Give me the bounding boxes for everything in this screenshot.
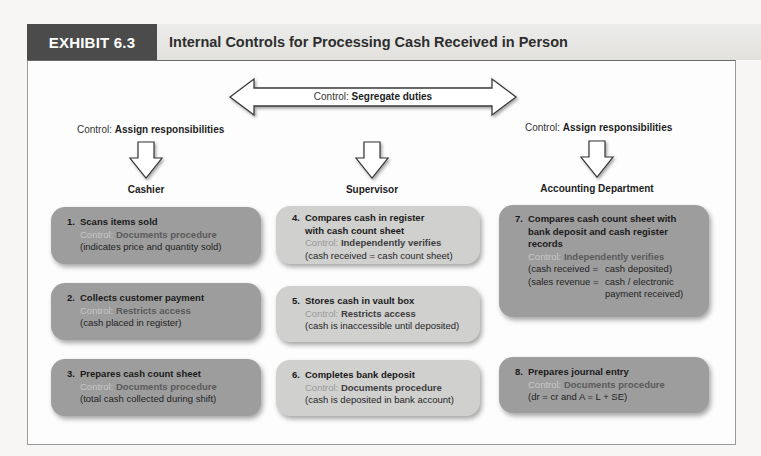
step-control: Control: Restricts access [292,308,468,321]
control-value: Assign responsibilities [115,124,224,135]
step-number: 7. [515,213,528,226]
equation-row: (cash received = cash deposited) [515,263,697,276]
step-number: 8. [515,366,528,379]
exhibit-title: Internal Controls for Processing Cash Re… [169,24,568,60]
step-number: 6. [292,369,305,382]
exhibit-tag: EXHIBIT 6.3 [27,24,157,60]
step-number: 5. [292,295,305,308]
step-control: Control: Independently verifies [292,237,468,250]
equation-row-continued: payment received) [515,288,697,301]
exhibit-header: EXHIBIT 6.3 Internal Controls for Proces… [27,24,761,60]
step-title-line3: records [515,238,697,251]
step-title-text: Prepares journal entry [528,366,629,379]
control-value: Documents procedure [116,229,217,240]
control-prefix: Control: [528,251,564,262]
control-prefix: Control: [528,379,564,390]
step-title: 3.Prepares cash count sheet [67,368,249,381]
step-title: 5.Stores cash in vault box [292,295,468,308]
step-title-text: Compares cash count sheet with [528,213,676,226]
step-title-text: Collects customer payment [80,292,204,305]
step-title: 7.Compares cash count sheet with [515,213,697,226]
equation-right: payment received) [605,288,683,301]
assign-responsibilities-right-label: Control: Assign responsibilities [525,122,672,133]
step-control: Control: Independently verifies [515,251,697,264]
segregate-duties-label: Control: Segregate duties [228,91,518,102]
column-title-supervisor: Supervisor [322,184,422,195]
step-box-7: 7.Compares cash count sheet with bank de… [499,205,709,317]
control-value: Documents procedure [564,379,665,390]
step-box-6: 6.Completes bank deposit Control: Docume… [276,360,480,416]
segregate-duties-double-arrow: Control: Segregate duties [228,78,518,116]
control-value: Documents procedure [116,381,217,392]
step-title-line2: bank deposit and cash register [515,226,697,239]
control-prefix: Control: [305,237,341,248]
step-note: (cash placed in register) [67,317,249,330]
step-note: (cash is inaccessible until deposited) [292,320,468,333]
equation-left: (sales revenue = [528,276,605,289]
step-box-3: 3.Prepares cash count sheet Control: Doc… [51,359,261,416]
control-prefix: Control: [80,305,116,316]
equation-right: cash / electronic [605,276,674,289]
step-number: 4. [292,212,305,225]
step-control: Control: Documents procedure [292,382,468,395]
step-note: (cash is deposited in bank account) [292,394,468,407]
equation-right: cash deposited) [605,263,672,276]
step-box-4: 4.Compares cash in register with cash co… [276,206,480,264]
step-title: 2.Collects customer payment [67,292,249,305]
control-value: Segregate duties [352,91,433,102]
column-title-accounting: Accounting Department [537,183,657,194]
step-title-text: Compares cash in register [305,212,424,225]
control-value: Restricts access [116,305,191,316]
control-prefix: Control: [314,91,352,102]
down-arrow-icon [580,140,614,178]
control-prefix: Control: [80,381,116,392]
step-box-5: 5.Stores cash in vault box Control: Rest… [276,286,480,342]
control-value: Documents procedure [341,382,442,393]
step-box-1: 1.Scans items sold Control: Documents pr… [51,207,261,264]
step-note: (indicates price and quantity sold) [67,241,249,254]
step-title: 6.Completes bank deposit [292,369,468,382]
spacer [528,288,605,301]
assign-responsibilities-left-label: Control: Assign responsibilities [77,124,224,135]
down-arrow-icon [355,141,389,179]
step-note: (total cash collected during shift) [67,393,249,406]
step-title-text: Scans items sold [80,216,158,229]
step-title-line2: with cash count sheet [292,225,468,238]
step-title-text: Stores cash in vault box [305,295,414,308]
step-title: 4.Compares cash in register [292,212,468,225]
control-value: Restricts access [341,308,416,319]
step-number: 2. [67,292,80,305]
down-arrow-icon [129,141,163,179]
control-prefix: Control: [525,122,563,133]
step-title: 1.Scans items sold [67,216,249,229]
step-title: 8.Prepares journal entry [515,366,697,379]
control-prefix: Control: [305,382,341,393]
step-title-text: Completes bank deposit [305,369,415,382]
step-note: (cash received = cash count sheet) [292,250,468,263]
control-value: Independently verifies [341,237,441,248]
control-prefix: Control: [305,308,341,319]
equation-left: (cash received = [528,263,605,276]
column-title-cashier: Cashier [96,184,196,195]
step-title-text: Prepares cash count sheet [80,368,201,381]
control-prefix: Control: [77,124,115,135]
step-number: 3. [67,368,80,381]
step-control: Control: Documents procedure [515,379,697,392]
step-note: (dr = cr and A = L + SE) [515,391,697,404]
step-control: Control: Documents procedure [67,381,249,394]
control-prefix: Control: [80,229,116,240]
control-value: Independently verifies [564,251,664,262]
step-box-2: 2.Collects customer payment Control: Res… [51,283,261,340]
step-control: Control: Restricts access [67,305,249,318]
step-number: 1. [67,216,80,229]
equation-row: (sales revenue = cash / electronic [515,276,697,289]
control-value: Assign responsibilities [563,122,672,133]
step-control: Control: Documents procedure [67,229,249,242]
step-box-8: 8.Prepares journal entry Control: Docume… [499,357,709,413]
